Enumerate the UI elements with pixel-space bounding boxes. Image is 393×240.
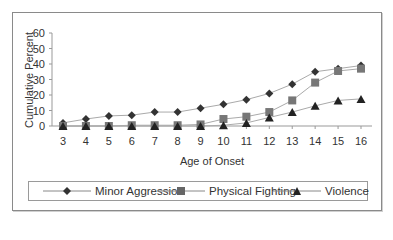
diamond-data-point (311, 68, 319, 76)
y-axis-title: Cumulative Percent (23, 32, 35, 128)
chart-legend: Minor Aggression Physical Fighting Viole… (28, 181, 368, 201)
x-tick-label: 9 (197, 135, 203, 147)
x-tick-label: 12 (263, 135, 275, 147)
diamond-data-point (242, 96, 250, 104)
diamond-data-point (105, 112, 113, 120)
x-tick-label: 7 (152, 135, 158, 147)
x-tick-label: 6 (129, 135, 135, 147)
diamond-data-point (265, 89, 273, 97)
x-tick-label: 5 (106, 135, 112, 147)
x-tick-label: 15 (332, 135, 344, 147)
diamond-data-point (197, 104, 205, 112)
x-tick-label: 8 (175, 135, 181, 147)
diamond-data-point (128, 111, 136, 119)
diamond-data-point (288, 80, 296, 88)
y-tick-label: 0 (39, 120, 45, 132)
square-marker-icon (157, 186, 205, 196)
x-tick-label: 14 (309, 135, 321, 147)
square-data-point (311, 79, 319, 87)
x-tick-label: 3 (60, 135, 66, 147)
x-tick-label: 11 (241, 135, 252, 147)
square-data-point (288, 96, 296, 104)
diamond-marker-icon (43, 186, 91, 196)
diamond-data-point (82, 115, 90, 123)
triangle-marker-icon (273, 186, 321, 196)
x-tick-label: 10 (217, 135, 229, 147)
legend-item-violence: Violence (273, 182, 369, 200)
diamond-data-point (219, 100, 227, 108)
diamond-data-point (151, 108, 159, 116)
x-axis-title: Age of Onset (180, 155, 244, 167)
x-tick-label: 13 (286, 135, 298, 147)
square-data-point (357, 65, 365, 73)
x-tick-label: 16 (355, 135, 367, 147)
x-tick-label: 4 (83, 135, 89, 147)
square-data-point (334, 67, 342, 75)
triangle-data-point (311, 102, 320, 110)
series-markers (59, 62, 366, 130)
triangle-data-point (288, 108, 297, 116)
diamond-data-point (174, 108, 182, 116)
legend-label: Violence (325, 185, 369, 197)
